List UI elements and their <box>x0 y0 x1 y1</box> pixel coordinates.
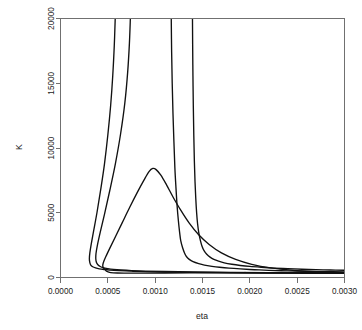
contour-label-outer: ·· <box>244 270 246 274</box>
x-tick-label-3: 0.0015 <box>190 287 215 296</box>
x-axis-title: eta <box>196 311 208 321</box>
x-tick-label-1: 0.0005 <box>95 287 120 296</box>
x-tick-label-4: 0.0020 <box>237 287 262 296</box>
y-tick-label-4: 20000 <box>47 7 56 30</box>
y-axis-title: K <box>14 144 24 150</box>
y-tick-label-3: 15000 <box>47 71 56 94</box>
x-tick-label-2: 0.0010 <box>143 287 168 296</box>
contour-plot: ··· 0.00000.00050.00100.00150.00200.0025… <box>0 0 362 330</box>
x-tick-label-0: 0.0000 <box>48 287 73 296</box>
chart-container: ··· 0.00000.00050.00100.00150.00200.0025… <box>0 0 362 330</box>
y-tick-label-2: 10000 <box>47 136 56 159</box>
y-tick-label-0: 0 <box>47 275 56 280</box>
x-tick-label-6: 0.0030 <box>332 287 357 296</box>
x-tick-label-5: 0.0025 <box>285 287 310 296</box>
contour-label-inner: · <box>198 265 199 269</box>
y-tick-label-1: 5000 <box>47 203 56 222</box>
